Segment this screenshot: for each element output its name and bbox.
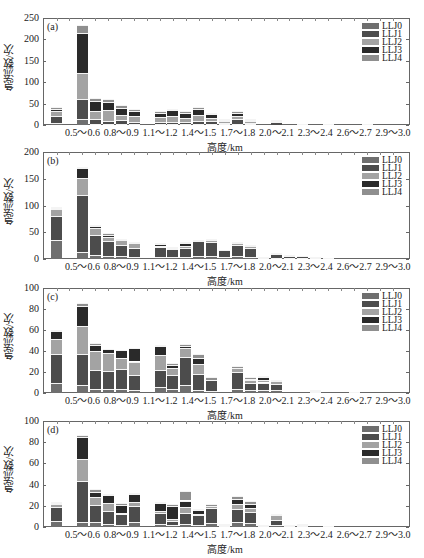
bar-segment-llj4 bbox=[155, 243, 166, 244]
bar-segment-llj4 bbox=[245, 501, 256, 504]
x-tick-label: 2.3～2.4 bbox=[298, 262, 333, 272]
bar-segment-llj1 bbox=[51, 116, 62, 122]
bar-segment-llj1 bbox=[129, 248, 140, 257]
bar-2.0～2.1 bbox=[271, 254, 282, 259]
y-tick-label: 0 bbox=[13, 120, 39, 130]
bar-1.1～1.2 bbox=[155, 111, 166, 125]
y-tick-right bbox=[406, 393, 409, 394]
x-tick-top bbox=[186, 152, 187, 155]
bar-segment-llj4 bbox=[180, 491, 191, 501]
bar-0.3～0.4 bbox=[51, 107, 62, 125]
bar-segment-llj2 bbox=[103, 237, 114, 241]
bar-segment-llj3 bbox=[193, 358, 204, 363]
bar-segment-llj2 bbox=[232, 116, 243, 119]
bar-segment-llj4 bbox=[271, 514, 282, 515]
bar-segment-llj2 bbox=[167, 116, 178, 121]
legend-swatch bbox=[362, 157, 379, 163]
x-tick-top bbox=[354, 18, 355, 21]
y-tick-right bbox=[406, 179, 409, 180]
bar-segment-llj3 bbox=[245, 379, 256, 380]
bar-segment-llj2 bbox=[129, 502, 140, 506]
y-axis-title: 急流数/次 bbox=[1, 44, 17, 91]
bar-segment-llj1 bbox=[258, 383, 269, 390]
bar-segment-llj3 bbox=[167, 110, 178, 116]
bar-segment-llj1 bbox=[129, 506, 140, 522]
bar-segment-llj2 bbox=[103, 503, 114, 511]
bar-0.5～0.6 bbox=[77, 303, 88, 393]
y-tick-right bbox=[406, 506, 409, 507]
bar-0.6～0.7 bbox=[90, 489, 101, 527]
bar-segment-llj2 bbox=[77, 459, 88, 481]
bar-1.4～1.5 bbox=[193, 241, 204, 259]
x-tick-top bbox=[121, 421, 122, 424]
bar-segment-llj3 bbox=[77, 168, 88, 178]
bar-segment-llj2 bbox=[77, 326, 88, 354]
bar-segment-llj4 bbox=[258, 376, 269, 377]
bar-segment-llj1 bbox=[232, 372, 243, 389]
x-tick-top bbox=[69, 288, 70, 291]
bar-segment-llj0 bbox=[193, 390, 204, 393]
bar-segment-llj3 bbox=[90, 492, 101, 497]
bar-segment-llj2 bbox=[51, 111, 62, 116]
bar-segment-llj4 bbox=[245, 377, 256, 379]
bar-0.6～0.7 bbox=[90, 98, 101, 125]
bar-segment-llj1 bbox=[51, 216, 62, 241]
y-tick-right bbox=[406, 18, 409, 19]
bar-segment-llj1 bbox=[180, 513, 191, 524]
bar-segment-llj1 bbox=[51, 507, 62, 521]
x-tick-top bbox=[380, 421, 381, 424]
bar-1.3～1.4 bbox=[180, 243, 191, 259]
x-tick-top bbox=[173, 288, 174, 291]
bar-segment-llj1 bbox=[232, 245, 243, 256]
bar-segment-llj3 bbox=[103, 102, 114, 110]
y-tick bbox=[43, 39, 46, 40]
bar-2.2～2.3 bbox=[297, 256, 308, 259]
bar-segment-llj4 bbox=[129, 242, 140, 243]
bar-1.3～1.4 bbox=[180, 344, 191, 393]
bar-segment-llj1 bbox=[103, 371, 114, 389]
bar-segment-llj3 bbox=[180, 243, 191, 245]
y-tick-label: 250 bbox=[13, 13, 39, 23]
bar-segment-llj0 bbox=[51, 240, 62, 259]
bar-1.7～1.8 bbox=[232, 111, 243, 125]
y-tick-label: 50 bbox=[13, 227, 39, 237]
bar-segment-llj4 bbox=[232, 496, 243, 499]
bar-segment-llj1 bbox=[206, 380, 217, 391]
x-tick-top bbox=[160, 288, 161, 291]
bar-segment-llj0 bbox=[90, 522, 101, 527]
bar-1.8～1.9 bbox=[245, 501, 256, 528]
x-tick-top bbox=[328, 152, 329, 155]
bar-segment-llj2 bbox=[116, 115, 127, 120]
bar-segment-llj1 bbox=[180, 248, 191, 257]
bar-segment-llj4 bbox=[180, 344, 191, 346]
bar-segment-llj4 bbox=[167, 504, 178, 506]
bar-segment-llj2 bbox=[180, 118, 191, 122]
x-tick-label: 2.6～2.7 bbox=[337, 128, 372, 138]
x-tick-label: 0.8～0.9 bbox=[104, 396, 139, 406]
y-tick-label: 0 bbox=[13, 522, 39, 532]
bar-2.0～2.1 bbox=[271, 380, 282, 393]
bar-segment-llj1 bbox=[245, 383, 256, 390]
bar-1.2～1.3 bbox=[167, 363, 178, 393]
bar-segment-llj1 bbox=[245, 123, 256, 124]
x-tick-label: 0.5～0.6 bbox=[65, 396, 100, 406]
x-tick-top bbox=[147, 421, 148, 424]
bar-0.7～0.8 bbox=[103, 233, 114, 259]
y-tick bbox=[43, 232, 46, 233]
bar-segment-llj4 bbox=[206, 377, 217, 380]
x-tick-top bbox=[328, 421, 329, 424]
bar-segment-llj1 bbox=[310, 391, 321, 392]
bar-segment-llj3 bbox=[155, 346, 166, 355]
y-tick bbox=[43, 309, 46, 310]
bar-segment-llj4 bbox=[271, 380, 282, 381]
bar-segment-llj1 bbox=[206, 121, 217, 124]
bar-segment-llj0 bbox=[155, 524, 166, 527]
bar-segment-llj1 bbox=[77, 195, 88, 252]
bar-segment-llj1 bbox=[258, 525, 269, 526]
y-tick-right bbox=[406, 485, 409, 486]
bar-segment-llj3 bbox=[103, 235, 114, 237]
bar-segment-llj1 bbox=[90, 505, 101, 522]
bar-segment-llj2 bbox=[258, 380, 269, 382]
x-tick-top bbox=[57, 152, 58, 155]
bar-segment-llj2 bbox=[245, 246, 256, 248]
